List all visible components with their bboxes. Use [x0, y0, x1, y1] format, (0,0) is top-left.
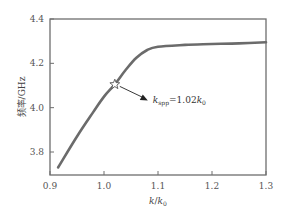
y-tick-label: 3.8	[30, 147, 45, 157]
annotation-label: kspp=1.02k0	[153, 95, 206, 107]
annotation-sub-spp: spp	[158, 99, 169, 107]
axis-ticks: 0.91.01.11.21.33.84.04.24.4	[30, 14, 274, 191]
y-tick-label: 4.4	[30, 14, 45, 24]
x-tick-label: 1.1	[151, 181, 165, 191]
y-tick-label: 4.2	[30, 58, 44, 68]
x-tick-label: 1.3	[259, 181, 274, 191]
x-axis-label-k0-sub: 0	[163, 200, 167, 207]
x-tick-label: 0.9	[43, 181, 58, 191]
x-tick-label: 1.0	[97, 181, 112, 191]
y-axis-label-cn: 频率	[16, 99, 27, 117]
annotation: kspp=1.02k0	[110, 79, 206, 107]
y-tick-label: 4.0	[30, 103, 45, 113]
dispersion-chart: 0.91.01.11.21.33.84.04.24.4 kspp=1.02k0 …	[0, 0, 284, 214]
y-axis-label: 频率/GHz	[16, 76, 27, 117]
annotation-arrow-line	[120, 86, 143, 97]
arrow-head-icon	[140, 94, 148, 100]
annotation-eq: =1.02	[169, 95, 197, 105]
x-axis-label: k/k0	[149, 196, 167, 207]
annotation-k0-sub: 0	[202, 99, 206, 106]
y-axis-label-unit: /GHz	[17, 76, 27, 99]
x-tick-label: 1.2	[205, 181, 219, 191]
